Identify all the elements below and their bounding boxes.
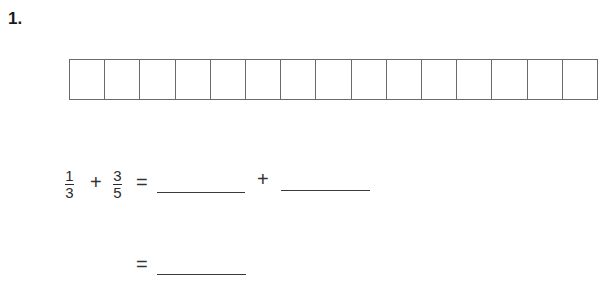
strip-cell bbox=[105, 60, 140, 99]
answer-blank-3[interactable] bbox=[157, 274, 246, 275]
strip-cell bbox=[281, 60, 316, 99]
plus-sign: + bbox=[257, 169, 269, 189]
fraction-strip bbox=[69, 59, 598, 100]
numerator: 3 bbox=[113, 169, 121, 183]
strip-cell bbox=[176, 60, 211, 99]
equals-sign: = bbox=[136, 172, 148, 192]
denominator: 5 bbox=[113, 186, 121, 200]
strip-cell bbox=[246, 60, 281, 99]
strip-cell bbox=[140, 60, 175, 99]
strip-cell bbox=[492, 60, 527, 99]
strip-cell bbox=[316, 60, 351, 99]
strip-cell bbox=[211, 60, 246, 99]
strip-cell bbox=[528, 60, 563, 99]
answer-blank-1[interactable] bbox=[157, 192, 245, 193]
strip-cell bbox=[422, 60, 457, 99]
numerator: 1 bbox=[65, 169, 73, 183]
strip-cell bbox=[563, 60, 597, 99]
fraction-one-third: 1 3 bbox=[65, 169, 74, 200]
question-number: 1. bbox=[8, 9, 22, 29]
plus-sign: + bbox=[90, 172, 102, 192]
answer-blank-2[interactable] bbox=[281, 190, 370, 191]
strip-cell bbox=[387, 60, 422, 99]
strip-cell bbox=[352, 60, 387, 99]
equals-sign: = bbox=[136, 254, 148, 274]
strip-cell bbox=[457, 60, 492, 99]
strip-cell bbox=[70, 60, 105, 99]
denominator: 3 bbox=[65, 186, 73, 200]
fraction-three-fifths: 3 5 bbox=[113, 169, 122, 200]
